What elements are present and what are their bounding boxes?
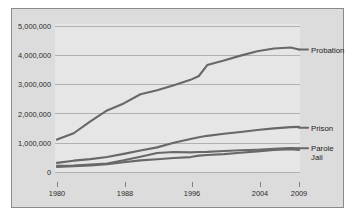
series-label-prison: Prison — [311, 124, 333, 133]
series-label-parole: Parole — [311, 144, 334, 153]
ytick-label-0: 0 — [47, 168, 51, 177]
ytick-label-2000000: 2,000,000 — [18, 110, 51, 119]
y-axis-tick-labels: 5,000,000 4,000,000 3,000,000 2,000,000 … — [18, 22, 51, 177]
ytick-label-5000000: 5,000,000 — [18, 22, 51, 31]
ytick-label-3000000: 3,000,000 — [18, 80, 51, 89]
xtick-label-1980: 1980 — [49, 189, 65, 198]
x-axis-tick-labels: 1980 1988 1996 2004 2009 — [49, 189, 307, 198]
chart-figure: 5,000,000 4,000,000 3,000,000 2,000,000 … — [0, 0, 356, 218]
xtick-label-2004: 2004 — [252, 189, 268, 198]
series-label-probation: Probation — [311, 46, 344, 55]
ytick-label-1000000: 1,000,000 — [18, 139, 51, 148]
xtick-label-2009: 2009 — [291, 189, 307, 198]
xtick-label-1996: 1996 — [184, 189, 200, 198]
series-label-jail: Jail — [311, 153, 323, 162]
ytick-label-4000000: 4,000,000 — [18, 51, 51, 60]
x-axis-tickmarks — [57, 182, 299, 187]
series-labels: Probation Prison Parole Jail — [311, 46, 344, 163]
line-chart: 5,000,000 4,000,000 3,000,000 2,000,000 … — [0, 0, 356, 218]
xtick-label-1988: 1988 — [117, 189, 133, 198]
series-label-leaders — [299, 50, 308, 149]
